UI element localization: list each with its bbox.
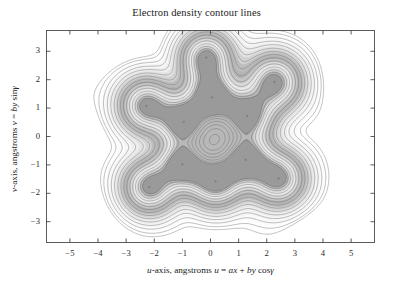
x-tick-label: 5 [339,248,363,258]
peak-center-marker [274,81,276,83]
x-tick-label: −4 [86,248,110,258]
x-tick-label: −2 [142,248,166,258]
x-tick-label: −5 [58,248,82,258]
peak-center-marker [277,177,279,179]
x-tick-label: 0 [199,248,223,258]
x-tick-label: 1 [227,248,251,258]
peak-center-marker [148,186,150,188]
peak-center-marker [246,115,248,117]
x-tick-label: 4 [311,248,335,258]
x-tick-label: 3 [283,248,307,258]
x-tick-label: −3 [114,248,138,258]
x-tick-label: −1 [170,248,194,258]
peak-center-marker [211,96,213,98]
peak-center-marker [245,159,247,161]
x-axis-label: u-axis, angstroms u = ax + by cosγ [46,265,375,275]
peak-center-marker [205,56,207,58]
peak-center-marker [214,180,216,182]
peak-center-marker [181,163,183,165]
electron-density-contour-figure: Electron density contour lines −5−4−3−2−… [0,0,393,292]
peak-center-marker [145,105,147,107]
y-axis-label: v-axis, angstroms v = by sinγ [9,32,23,246]
peak-center-marker [183,121,185,123]
x-tick-label: 2 [255,248,279,258]
